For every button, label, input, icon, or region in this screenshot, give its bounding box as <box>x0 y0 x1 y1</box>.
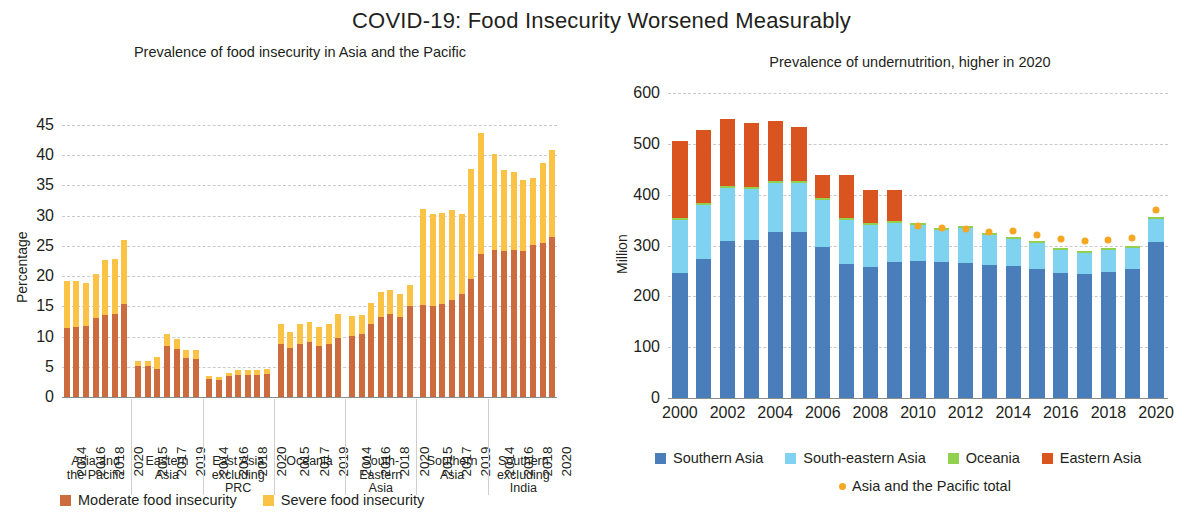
left-y-tick: 15 <box>10 297 54 315</box>
left-bar <box>264 369 270 397</box>
right-x-year-label: 2020 <box>1138 404 1174 422</box>
bar-segment-moderate <box>540 243 546 397</box>
bar-segment-eastern-asia <box>696 130 711 203</box>
left-bar <box>216 377 222 397</box>
legend-swatch-icon <box>60 495 71 506</box>
right-bar <box>982 233 997 398</box>
right-bar <box>958 226 973 398</box>
bar-segment-south-eastern-asia <box>982 235 997 264</box>
bar-segment-severe <box>316 327 322 346</box>
bar-segment-moderate <box>307 342 313 397</box>
bar-segment-south-eastern-asia <box>863 225 878 267</box>
total-marker-dot <box>1057 236 1064 243</box>
legend-swatch-icon <box>785 453 796 464</box>
legend-dot-icon <box>839 483 846 490</box>
right-bar <box>791 127 806 398</box>
right-x-year-label: 2000 <box>662 404 698 422</box>
bar-segment-severe <box>501 170 507 252</box>
left-group-label: Eastern Asia <box>127 455 206 482</box>
left-bar <box>235 370 241 397</box>
bar-segment-southern-asia <box>1125 269 1140 398</box>
left-bar <box>420 209 426 397</box>
left-chart-legend: Moderate food insecuritySevere food inse… <box>60 492 560 508</box>
left-group-label: Southern Asia <box>412 455 491 482</box>
left-bar <box>164 334 170 397</box>
left-bar <box>326 324 332 397</box>
right-bar <box>839 175 854 398</box>
bar-segment-moderate <box>420 305 426 397</box>
bar-segment-moderate <box>326 344 332 397</box>
bar-segment-southern-asia <box>1077 274 1092 398</box>
bar-segment-moderate <box>112 314 118 397</box>
bar-segment-moderate <box>520 251 526 397</box>
legend-item: Asia and the Pacific total <box>839 478 1011 494</box>
bar-segment-severe <box>193 350 199 358</box>
bar-segment-southern-asia <box>696 259 711 398</box>
left-bar <box>226 373 232 397</box>
bar-segment-moderate <box>278 344 284 397</box>
left-bar <box>193 350 199 397</box>
right-bar <box>1101 248 1116 398</box>
right-bar <box>696 130 711 398</box>
bar-segment-moderate <box>359 334 365 397</box>
left-bar <box>154 357 160 397</box>
left-group-label: Southern excluding India <box>484 455 563 496</box>
right-bar <box>887 190 902 398</box>
left-bar <box>511 172 517 397</box>
bar-segment-moderate <box>245 375 251 397</box>
left-bar <box>468 169 474 397</box>
bar-segment-severe <box>154 357 160 369</box>
bar-segment-moderate <box>549 237 555 397</box>
bar-segment-south-eastern-asia <box>1148 219 1163 242</box>
left-bar <box>397 294 403 397</box>
bar-segment-south-eastern-asia <box>744 189 759 240</box>
legend-label: Asia and the Pacific total <box>852 478 1011 494</box>
left-y-tick: 5 <box>10 358 54 376</box>
bar-segment-southern-asia <box>815 247 830 398</box>
total-marker-dot <box>915 223 922 230</box>
left-bar <box>245 370 251 397</box>
right-y-tick: 200 <box>610 287 660 305</box>
bar-segment-moderate <box>64 328 70 397</box>
left-bar <box>492 154 498 397</box>
food-insecurity-chart: Percentage051015202530354045201420162018… <box>0 60 600 500</box>
bar-segment-severe <box>112 259 118 314</box>
total-marker-dot <box>986 228 993 235</box>
bar-segment-south-eastern-asia <box>768 183 783 232</box>
bar-segment-moderate <box>83 326 89 397</box>
bar-segment-south-eastern-asia <box>958 228 973 263</box>
bar-segment-moderate <box>387 314 393 397</box>
bar-segment-severe <box>459 214 465 294</box>
right-gridline <box>668 93 1168 94</box>
legend-item: Severe food insecurity <box>263 492 424 508</box>
right-y-tick: 400 <box>610 186 660 204</box>
right-y-tick: 500 <box>610 135 660 153</box>
undernutrition-chart: Million010020030040050060020002002200420… <box>600 60 1203 500</box>
right-x-year-label: 2014 <box>995 404 1031 422</box>
left-bar <box>520 180 526 397</box>
left-bar <box>135 361 141 397</box>
bar-segment-southern-asia <box>887 262 902 398</box>
left-gridline <box>62 125 557 126</box>
bar-segment-south-eastern-asia <box>839 220 854 264</box>
bar-segment-moderate <box>287 348 293 397</box>
bar-segment-southern-asia <box>1053 273 1068 398</box>
total-marker-dot <box>1034 231 1041 238</box>
bar-segment-moderate <box>492 250 498 397</box>
bar-segment-southern-asia <box>958 263 973 398</box>
bar-segment-severe <box>378 292 384 317</box>
bar-segment-severe <box>387 290 393 314</box>
bar-segment-eastern-asia <box>791 127 806 181</box>
bar-segment-south-eastern-asia <box>1006 239 1021 266</box>
left-bar <box>206 376 212 397</box>
left-bar <box>359 315 365 397</box>
bar-segment-eastern-asia <box>887 190 902 222</box>
legend-label: Eastern Asia <box>1060 450 1141 466</box>
bar-segment-south-eastern-asia <box>1125 248 1140 269</box>
bar-segment-eastern-asia <box>744 123 759 187</box>
bar-segment-moderate <box>501 251 507 397</box>
bar-segment-moderate <box>73 327 79 397</box>
bar-segment-moderate <box>235 375 241 397</box>
right-x-year-label: 2016 <box>1043 404 1079 422</box>
left-bar <box>368 303 374 397</box>
